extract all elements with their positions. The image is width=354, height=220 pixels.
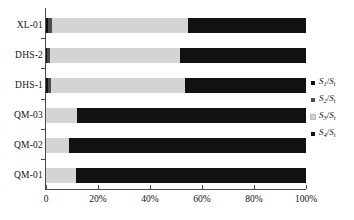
bar-row xyxy=(46,18,306,33)
bar-row xyxy=(46,138,306,153)
legend-item: S3/St xyxy=(311,110,354,127)
x-axis-label: 100% xyxy=(295,194,317,204)
bar-segment-s4-over-st xyxy=(69,138,306,153)
y-axis-tick xyxy=(41,129,45,130)
y-axis-tick xyxy=(41,68,45,69)
bar-segment-s3-over-st xyxy=(50,48,180,63)
legend-item: S4/St xyxy=(311,127,354,144)
x-axis-tick xyxy=(98,185,99,189)
bar-segment-s4-over-st xyxy=(180,48,306,63)
bar-segment-s3-over-st xyxy=(51,78,185,93)
bar-row xyxy=(46,78,306,93)
x-axis-label: 0 xyxy=(44,194,49,204)
bar-segment-s3-over-st xyxy=(46,168,76,183)
x-axis-tick xyxy=(306,185,307,189)
y-axis-label: QM-02 xyxy=(14,140,43,150)
legend-item: S1/St xyxy=(311,76,354,93)
y-axis-tick xyxy=(41,159,45,160)
bar-segment-s3-over-st xyxy=(46,108,77,123)
legend-swatch-icon xyxy=(311,98,315,102)
bar-segment-s4-over-st xyxy=(77,108,306,123)
plot-area xyxy=(46,8,306,190)
chart-legend: S1/StS2/StS3/StS4/St xyxy=(311,76,354,144)
legend-swatch-icon xyxy=(311,81,315,85)
bar-segment-s4-over-st xyxy=(76,168,306,183)
x-axis-tick xyxy=(254,185,255,189)
x-axis-tick xyxy=(202,185,203,189)
x-axis-label: 80% xyxy=(245,194,262,204)
legend-label: S4/St xyxy=(319,127,336,137)
stacked-bar-chart: XL-01DHS-2DHS-1QM-03QM-02QM-01 020%40%60… xyxy=(0,0,354,220)
bar-segment-s4-over-st xyxy=(185,78,306,93)
bar-segment-s3-over-st xyxy=(46,138,69,153)
y-axis-label: QM-01 xyxy=(14,170,43,180)
legend-label: S2/St xyxy=(319,93,336,103)
y-axis-label: DHS-1 xyxy=(15,80,43,90)
bar-row xyxy=(46,48,306,63)
bar-segment-s4-over-st xyxy=(188,18,306,33)
legend-label: S3/St xyxy=(319,110,336,120)
x-axis-tick xyxy=(150,185,151,189)
y-axis-tick xyxy=(41,99,45,100)
legend-swatch-icon xyxy=(311,115,315,119)
y-axis-label: DHS-2 xyxy=(15,50,43,60)
y-axis-tick xyxy=(41,38,45,39)
legend-label: S1/St xyxy=(319,76,336,86)
bar-segment-s3-over-st xyxy=(52,18,188,33)
x-axis-label: 40% xyxy=(141,194,158,204)
x-axis-label: 60% xyxy=(193,194,210,204)
y-axis-label: XL-01 xyxy=(17,20,43,30)
legend-swatch-icon xyxy=(311,132,315,136)
x-axis-tick xyxy=(46,185,47,189)
bar-row xyxy=(46,108,306,123)
legend-item: S2/St xyxy=(311,93,354,110)
x-axis-label: 20% xyxy=(89,194,106,204)
bar-row xyxy=(46,168,306,183)
y-axis-label: QM-03 xyxy=(14,110,43,120)
